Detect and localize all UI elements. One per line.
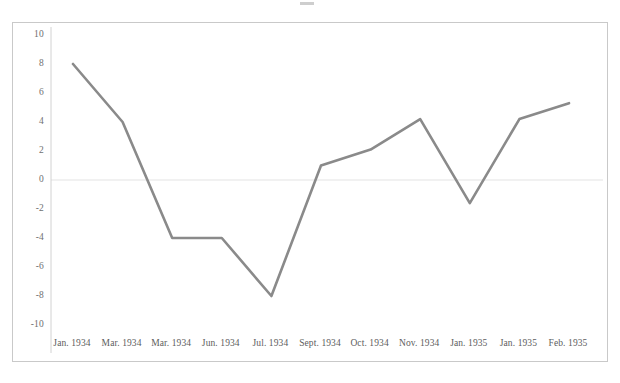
y-axis-tick-label: -10: [14, 319, 44, 329]
y-axis-tick-label: 8: [14, 58, 44, 68]
y-axis-tick-label: 6: [14, 87, 44, 97]
y-axis-tick-label: -4: [14, 232, 44, 242]
y-axis-tick-label: 0: [14, 174, 44, 184]
x-axis-tick-label: Feb. 1935: [538, 338, 598, 349]
y-axis-tick-label: -2: [14, 203, 44, 213]
y-axis-tick-label: 2: [14, 145, 44, 155]
y-axis-tick-label: -6: [14, 261, 44, 271]
line-chart-canvas: [13, 23, 607, 361]
y-axis-tick-label: 4: [14, 116, 44, 126]
chart-figure: 1086420-2-4-6-8-10 Jan. 1934Mar. 1934Mar…: [0, 0, 620, 383]
chart-plot-frame: [12, 22, 608, 362]
y-axis-tick-label: -8: [14, 290, 44, 300]
y-axis-tick-label: 10: [14, 29, 44, 39]
scan-artifact: [300, 2, 314, 5]
